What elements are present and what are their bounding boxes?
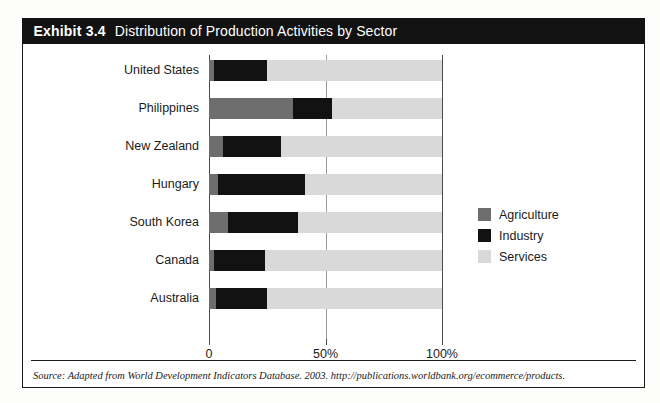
axis-tick xyxy=(326,339,327,345)
stacked-bar xyxy=(209,174,442,195)
category-label: United States xyxy=(23,57,199,83)
axis-tick-label: 50% xyxy=(313,347,338,361)
source-note: Source: Adapted from World Development I… xyxy=(33,370,633,381)
axis-tick xyxy=(442,339,443,345)
stacked-bar xyxy=(209,212,442,233)
category-label: Australia xyxy=(23,285,199,311)
legend-swatch-industry xyxy=(478,229,491,242)
bar-segment-agriculture xyxy=(209,136,223,157)
plot-area: United StatesPhilippinesNew ZealandHunga… xyxy=(23,45,643,387)
exhibit-box: Exhibit 3.4 Distribution of Production A… xyxy=(22,18,645,388)
chart-row: Australia xyxy=(23,285,643,311)
bar-segment-industry xyxy=(293,98,333,119)
legend-label: Agriculture xyxy=(499,208,559,222)
stacked-bar xyxy=(209,136,442,157)
bar-segment-services xyxy=(305,174,442,195)
chart-row: United States xyxy=(23,57,643,83)
chart-row: Hungary xyxy=(23,171,643,197)
category-label: New Zealand xyxy=(23,133,199,159)
legend-label: Services xyxy=(499,250,547,264)
bar-segment-industry xyxy=(214,60,268,81)
bar-segment-services xyxy=(265,250,442,271)
bar-segment-industry xyxy=(214,250,265,271)
bar-segment-services xyxy=(267,288,442,309)
stacked-bar-chart: United StatesPhilippinesNew ZealandHunga… xyxy=(23,45,643,361)
bar-segment-services xyxy=(281,136,442,157)
legend-item: Services xyxy=(478,247,628,266)
category-label: Hungary xyxy=(23,171,199,197)
legend-item: Agriculture xyxy=(478,205,628,224)
bar-segment-agriculture xyxy=(209,288,216,309)
stacked-bar xyxy=(209,98,442,119)
chart-row: New Zealand xyxy=(23,133,643,159)
axis-tick-label: 100% xyxy=(426,347,458,361)
source-divider xyxy=(31,360,636,361)
category-label: South Korea xyxy=(23,209,199,235)
bar-segment-services xyxy=(332,98,442,119)
axis-tick-label: 0 xyxy=(206,347,213,361)
bar-segment-industry xyxy=(216,288,267,309)
bar-segment-industry xyxy=(218,174,304,195)
bar-segment-agriculture xyxy=(209,174,218,195)
stacked-bar xyxy=(209,288,442,309)
exhibit-title-bar: Exhibit 3.4 Distribution of Production A… xyxy=(22,18,645,44)
x-axis: 050%100% xyxy=(23,339,643,369)
legend-swatch-agriculture xyxy=(478,208,491,221)
bar-segment-industry xyxy=(228,212,298,233)
bar-segment-agriculture xyxy=(209,98,293,119)
chart-legend: AgricultureIndustryServices xyxy=(478,205,628,268)
axis-tick xyxy=(209,339,210,345)
bar-segment-services xyxy=(267,60,442,81)
bar-segment-agriculture xyxy=(209,212,228,233)
bar-segment-services xyxy=(298,212,442,233)
bar-segment-industry xyxy=(223,136,281,157)
exhibit-title: Distribution of Production Activities by… xyxy=(115,23,398,39)
legend-item: Industry xyxy=(478,226,628,245)
category-label: Canada xyxy=(23,247,199,273)
exhibit-number: Exhibit 3.4 xyxy=(34,23,106,39)
category-label: Philippines xyxy=(23,95,199,121)
legend-swatch-services xyxy=(478,250,491,263)
chart-row: Philippines xyxy=(23,95,643,121)
legend-label: Industry xyxy=(499,229,543,243)
stacked-bar xyxy=(209,60,442,81)
stacked-bar xyxy=(209,250,442,271)
